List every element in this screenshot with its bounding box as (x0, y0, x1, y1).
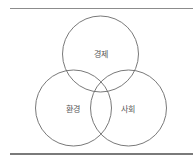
label-environment: 환경 (66, 104, 80, 114)
label-society: 사회 (121, 105, 135, 114)
venn-diagram: 경제 환경 사회 (0, 0, 196, 163)
bottom-rule (10, 153, 193, 155)
label-economy: 경제 (94, 49, 108, 59)
